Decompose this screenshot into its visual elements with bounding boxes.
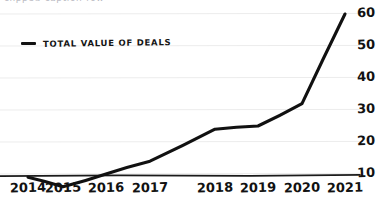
x-axis-tick-label: 2017 xyxy=(132,179,169,195)
gridline xyxy=(0,173,360,174)
x-axis-labels: 20142015201620172018201920202021 xyxy=(0,180,383,205)
y-axis-tick-label: 60 xyxy=(357,5,376,21)
y-axis-tick-label: 20 xyxy=(357,133,376,149)
x-axis-tick-label: 2019 xyxy=(240,179,277,195)
legend-label: TOTAL VALUE OF DEALS xyxy=(43,37,172,49)
gridline xyxy=(0,13,360,14)
gridline xyxy=(0,141,360,142)
legend-line-icon xyxy=(21,42,36,45)
x-axis-line xyxy=(0,175,360,176)
x-axis-tick-label: 2021 xyxy=(327,179,364,195)
y-axis-tick-label: 10 xyxy=(357,165,376,181)
x-axis-tick-label: 2018 xyxy=(197,179,234,195)
y-axis-labels: 102030405060 xyxy=(345,0,383,180)
x-axis-tick-label: 2020 xyxy=(284,179,321,195)
y-axis-tick-label: 30 xyxy=(357,101,376,117)
axis-baseline xyxy=(0,175,360,176)
chart-legend: TOTAL VALUE OF DEALS xyxy=(21,38,171,48)
chart-container: clipped-caption-row 102030405060 2014201… xyxy=(0,0,383,205)
plot-area xyxy=(0,0,383,205)
x-axis-tick-label: 2015 xyxy=(45,179,82,195)
gridline xyxy=(0,77,360,78)
y-axis-tick-label: 50 xyxy=(357,37,376,53)
y-axis-tick-label: 40 xyxy=(357,69,376,85)
x-axis-tick-label: 2016 xyxy=(88,179,125,195)
gridline xyxy=(0,109,360,110)
line-chart-svg xyxy=(0,0,383,205)
x-axis-tick-label: 2014 xyxy=(10,179,47,195)
